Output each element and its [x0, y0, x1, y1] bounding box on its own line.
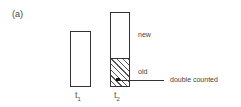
axis-label-t1: t1: [75, 90, 81, 102]
bar-t1: [70, 31, 91, 87]
segment-label-old: old: [138, 68, 147, 75]
double-counted-label: double counted: [170, 76, 218, 83]
double-counted-marker-icon: [116, 78, 120, 81]
axis-label-t2: t2: [114, 90, 120, 102]
segment-label-new: new: [138, 31, 151, 38]
axis-label-t2-sub: 2: [117, 96, 120, 102]
double-counted-leader-line: [118, 80, 164, 81]
panel-label: (a): [12, 9, 23, 19]
axis-label-t1-sub: 1: [78, 96, 81, 102]
bar-t2-old-segment-hatched: [110, 58, 130, 87]
